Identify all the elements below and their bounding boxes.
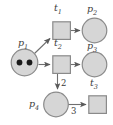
place-label-p4: p4 xyxy=(29,99,39,111)
petri-net-diagram: p1 p2 p3 p4 t1 t2 t3 2 3 xyxy=(0,0,113,125)
transition-t3[interactable] xyxy=(89,96,107,114)
token-p1-1 xyxy=(17,60,23,66)
place-p4[interactable] xyxy=(44,92,69,117)
place-label-p1: p1 xyxy=(18,38,28,50)
place-p2[interactable] xyxy=(82,18,107,43)
place-p1[interactable] xyxy=(11,49,38,76)
arc-p1-to-t1 xyxy=(35,39,51,54)
transition-label-t1: t1 xyxy=(54,3,62,15)
transition-label-t2: t2 xyxy=(54,38,62,50)
place-p3[interactable] xyxy=(82,52,107,77)
transition-label-t3: t3 xyxy=(90,78,98,90)
transition-t2[interactable] xyxy=(53,56,71,74)
place-label-p3: p3 xyxy=(87,41,97,53)
place-label-p2: p2 xyxy=(87,4,97,16)
arc-weight-p4-t3: 3 xyxy=(71,107,76,116)
petri-net-canvas xyxy=(0,0,113,125)
arc-weight-t2-p4: 2 xyxy=(61,79,66,88)
token-p1-2 xyxy=(27,60,33,66)
